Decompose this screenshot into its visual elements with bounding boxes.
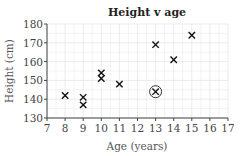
- svg-text:15: 15: [185, 122, 198, 134]
- x-tick-labels: 7891011121314151617: [44, 122, 235, 134]
- svg-text:130: 130: [23, 112, 43, 124]
- svg-text:17: 17: [221, 122, 234, 134]
- svg-text:14: 14: [167, 122, 181, 134]
- svg-text:7: 7: [44, 122, 51, 134]
- scatter-chart: Height v age 7891011121314151617 1301401…: [0, 0, 245, 156]
- axes: [44, 24, 228, 121]
- svg-text:8: 8: [62, 122, 69, 134]
- svg-text:12: 12: [131, 122, 144, 134]
- svg-text:170: 170: [23, 37, 43, 49]
- chart-title: Height v age: [108, 6, 186, 19]
- svg-text:140: 140: [23, 93, 43, 105]
- svg-text:9: 9: [80, 122, 87, 134]
- svg-text:10: 10: [95, 122, 108, 134]
- svg-text:160: 160: [23, 56, 43, 68]
- y-axis-label: Height (cm): [3, 39, 15, 103]
- x-axis-label: Age (years): [106, 140, 168, 152]
- svg-text:16: 16: [203, 122, 217, 134]
- svg-text:11: 11: [113, 122, 126, 134]
- gridlines: [47, 24, 228, 118]
- svg-text:13: 13: [149, 122, 162, 134]
- svg-text:180: 180: [23, 18, 43, 30]
- svg-text:150: 150: [23, 74, 43, 86]
- y-tick-labels: 130140150160170180: [23, 18, 43, 124]
